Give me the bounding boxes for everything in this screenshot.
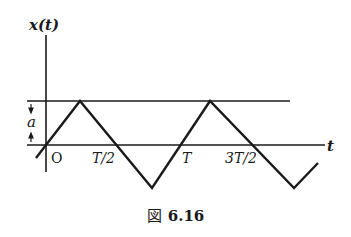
caption-prefix: 図 — [147, 207, 162, 225]
tick-label-half-period: T/2 — [92, 150, 115, 166]
figure-caption: 図6.16 — [0, 204, 351, 225]
caption-number: 6.16 — [168, 207, 205, 225]
tick-label-three-half-period: 3T/2 — [225, 150, 257, 166]
y-axis-label: x(t) — [28, 16, 59, 34]
x-axis-label: t — [327, 137, 334, 155]
tick-label-origin: O — [51, 150, 62, 166]
triangular-wave-figure: x(t) t a O T/2 T 3T/2 図6.16 — [0, 0, 351, 237]
amplitude-label: a — [27, 113, 36, 131]
tick-label-period: T — [182, 150, 193, 166]
plot-svg: x(t) t a O T/2 T 3T/2 — [0, 0, 351, 237]
